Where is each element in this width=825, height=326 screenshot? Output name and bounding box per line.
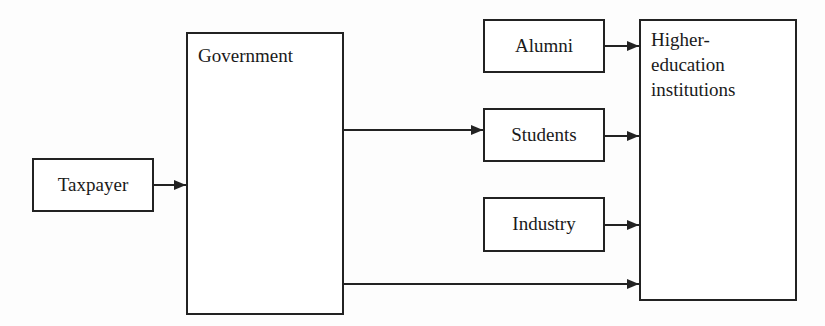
- arrows-layer: [0, 0, 825, 326]
